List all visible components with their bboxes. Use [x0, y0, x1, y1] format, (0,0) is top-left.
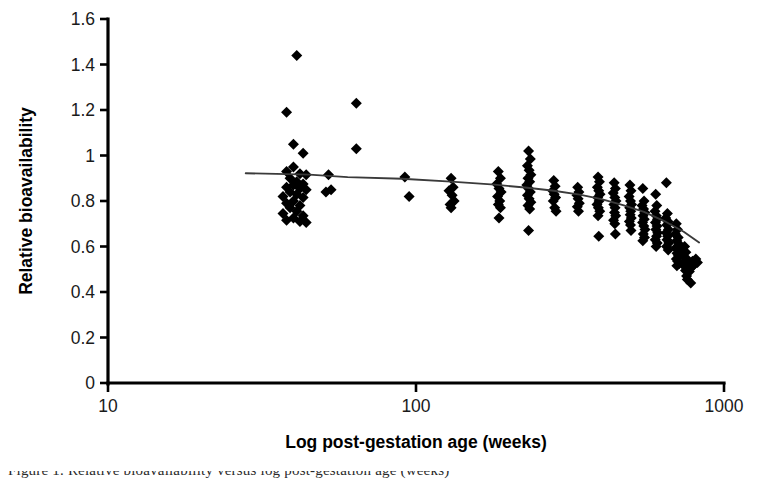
x-tick-label: 100 [401, 396, 430, 416]
figure-caption-text: Figure 1. Relative bioavailability versu… [8, 471, 762, 479]
data-point [288, 139, 299, 150]
data-point [351, 98, 362, 109]
data-point [494, 213, 505, 224]
x-axis-title: Log post-gestation age (weeks) [285, 432, 547, 452]
data-point [404, 191, 415, 202]
data-point [523, 145, 534, 156]
y-axis-tick-labels: 00.20.40.60.811.21.41.6 [71, 9, 96, 393]
y-tick-label: 0.8 [71, 191, 95, 211]
y-tick-label: 1 [85, 146, 95, 166]
y-tick-label: 0.6 [71, 237, 95, 257]
data-point [399, 172, 410, 183]
data-point [637, 183, 648, 194]
data-point [291, 50, 302, 61]
data-point [298, 148, 309, 159]
data-point [281, 107, 292, 118]
y-tick-label: 0.4 [71, 282, 96, 302]
figure-container: 00.20.40.60.811.21.41.6 101001000 Log po… [0, 0, 770, 485]
y-axis-title: Relative bioavailability [16, 107, 36, 295]
data-point [610, 228, 621, 239]
x-axis-tick-labels: 101001000 [98, 396, 743, 416]
y-tick-label: 0 [85, 373, 95, 393]
data-point [650, 189, 661, 200]
data-point [661, 177, 672, 188]
figure-caption-strip: Figure 1. Relative bioavailability versu… [0, 471, 770, 485]
x-tick-label: 1000 [705, 396, 744, 416]
data-point [523, 225, 534, 236]
scatter-plot: 00.20.40.60.811.21.41.6 101001000 Log po… [0, 0, 770, 485]
data-point [351, 143, 362, 154]
y-tick-label: 1.2 [71, 100, 95, 120]
y-tick-label: 0.2 [71, 328, 95, 348]
y-tick-label: 1.6 [71, 9, 95, 29]
data-point [593, 231, 604, 242]
data-point-markers [278, 50, 703, 289]
y-tick-label: 1.4 [71, 55, 96, 75]
x-tick-label: 10 [98, 396, 118, 416]
